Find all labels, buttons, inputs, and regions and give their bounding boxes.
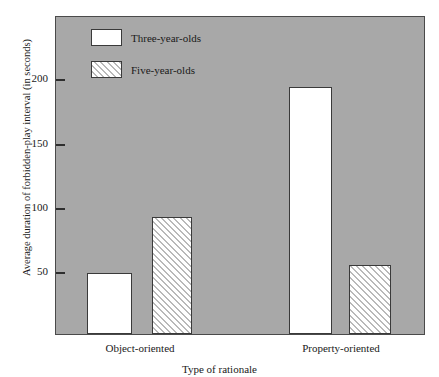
x-group-label-property-oriented: Property-oriented	[261, 342, 421, 354]
bar-property-oriented-three-year-olds	[289, 87, 332, 334]
x-group-label-object-oriented: Object-oriented	[60, 342, 220, 354]
bar-object-oriented-five-year-olds	[152, 217, 192, 334]
legend-swatch-solid	[91, 29, 122, 46]
plot-area: Three-year-olds Five-year-olds	[55, 16, 425, 335]
y-tick-50	[56, 272, 65, 274]
legend-swatch-hatched	[91, 61, 122, 78]
y-tick-200	[56, 79, 65, 81]
legend-label-three-year-olds: Three-year-olds	[131, 32, 201, 44]
y-tick-100	[56, 208, 65, 210]
bar-property-oriented-five-year-olds	[349, 265, 391, 334]
legend-item-three-year-olds: Three-year-olds	[91, 29, 201, 46]
y-tick-150	[56, 144, 65, 146]
legend-item-five-year-olds: Five-year-olds	[91, 61, 195, 78]
bar-chart-figure: Three-year-olds Five-year-olds 200 150 1…	[0, 0, 439, 377]
y-axis-title: Average duration of forbidden-play inter…	[21, 8, 32, 308]
legend-label-five-year-olds: Five-year-olds	[131, 64, 195, 76]
bar-object-oriented-three-year-olds	[87, 273, 132, 334]
x-axis-title: Type of rationale	[0, 363, 439, 375]
